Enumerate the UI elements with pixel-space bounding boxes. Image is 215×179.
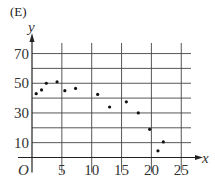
data-point (148, 128, 151, 131)
y-axis-label: y (26, 19, 35, 35)
x-tick-label: 10 (84, 162, 99, 178)
y-tick-label: 50 (14, 75, 29, 91)
data-point (96, 93, 99, 96)
data-point (45, 82, 48, 85)
x-tick-label: 15 (114, 162, 129, 178)
origin-label: O (18, 162, 29, 178)
x-tick-label: 25 (174, 162, 189, 178)
x-tick-label: 20 (144, 162, 159, 178)
data-point (40, 88, 43, 91)
data-point (55, 80, 58, 83)
data-point (156, 149, 159, 152)
y-tick-label: 70 (14, 46, 29, 62)
data-point (162, 140, 165, 143)
y-tick-label: 10 (14, 135, 29, 151)
data-point (137, 111, 140, 114)
x-axis-label: x (201, 150, 209, 166)
data-point (35, 92, 38, 95)
data-point (63, 89, 66, 92)
data-point (74, 87, 77, 90)
scatter-chart: xyO51015202510305070 (0, 0, 215, 179)
data-point (108, 105, 111, 108)
data-point (125, 100, 128, 103)
x-tick-label: 5 (58, 162, 66, 178)
y-tick-label: 30 (14, 105, 29, 121)
